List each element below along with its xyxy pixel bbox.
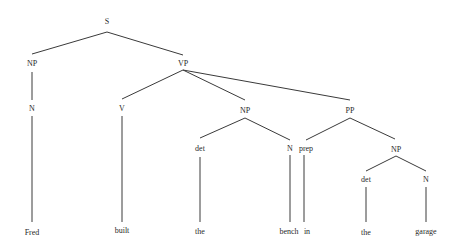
node-v: V (119, 104, 125, 113)
node-prep: prep (299, 144, 313, 153)
tree-leaves: Fred built the bench in the garage (25, 226, 437, 237)
tree-edges (32, 32, 426, 222)
leaf-bench: bench (279, 227, 298, 236)
node-det-object: det (195, 144, 206, 153)
tree-nodes: S NP VP N V NP PP det N prep NP det N (27, 17, 429, 184)
node-pp: PP (346, 106, 355, 115)
node-np-object: NP (240, 106, 251, 115)
parse-tree-diagram: S NP VP N V NP PP det N prep NP det N Fr… (0, 0, 460, 247)
leaf-the-1: the (195, 227, 205, 236)
leaf-fred: Fred (25, 228, 40, 237)
node-np-subject: NP (27, 59, 38, 68)
node-np-pp: NP (391, 145, 402, 154)
node-n-object: N (287, 144, 293, 153)
node-det-pp: det (361, 175, 372, 184)
node-n-subject: N (29, 104, 35, 113)
leaf-the-2: the (361, 228, 371, 237)
leaf-garage: garage (415, 227, 437, 236)
leaf-built: built (115, 226, 130, 235)
node-n-pp: N (423, 175, 429, 184)
leaf-in: in (304, 227, 310, 236)
node-s: S (105, 17, 109, 26)
node-vp: VP (178, 59, 189, 68)
